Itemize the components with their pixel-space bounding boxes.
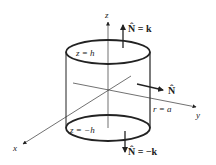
y-axis — [73, 83, 196, 107]
side-normal-label: N̂ — [168, 84, 176, 96]
bottom-plane-label: z = −h — [69, 125, 95, 135]
radius-label: r = a — [153, 104, 172, 114]
y-axis-label: y — [195, 110, 200, 120]
cylinder-diagram: z y x z = h z = −h r = a N̂ = k N̂ N̂ = … — [0, 0, 216, 165]
top-normal-label: N̂ = k — [128, 22, 152, 34]
z-axis-label: z — [104, 10, 109, 20]
bottom-normal-label: N̂ = −k — [128, 145, 158, 157]
x-axis-label: x — [12, 143, 17, 153]
top-plane-label: z = h — [75, 48, 95, 58]
